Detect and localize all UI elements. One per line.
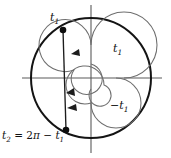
- label-minus-t1-sign: −: [110, 99, 119, 112]
- t2-coefficient: 2: [26, 129, 33, 141]
- chord-line: [63, 30, 66, 130]
- label-t1-upper-point: t1: [50, 12, 59, 26]
- label-t1-inner-angle: t1: [113, 43, 122, 57]
- chord-arrow-upper-icon: [71, 49, 80, 56]
- point-t1-marker: [60, 27, 67, 34]
- label-t1-inner-sub: 1: [117, 48, 122, 57]
- figure-container: t1 t1 −t1 t2 = 2π − t1: [0, 0, 171, 158]
- t2-equals: =: [14, 129, 23, 141]
- minus-t1-spiral-arc: [66, 66, 141, 128]
- t2-minus: −: [43, 129, 52, 141]
- label-t2-equation: t2 = 2π − t1: [2, 130, 64, 143]
- label-minus-t1-angle: −t1: [110, 100, 128, 114]
- label-t1-upper-sub: 1: [54, 17, 59, 26]
- label-minus-t1-sub: 1: [124, 105, 129, 114]
- t2-pi-symbol: π: [33, 129, 40, 141]
- t2-rhs-sub: 1: [60, 135, 65, 144]
- chord-arrow-lower-icon: [67, 104, 77, 111]
